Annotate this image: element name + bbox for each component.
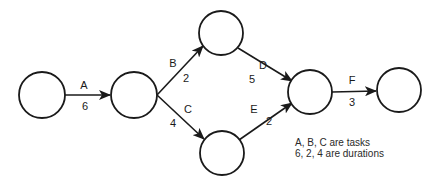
task-label-e: E [250, 103, 257, 115]
edge-f-arrow [332, 91, 376, 92]
event-node-4 [200, 131, 244, 175]
legend-line-tasks: A, B, C are tasks [295, 137, 384, 148]
event-node-1 [19, 72, 65, 118]
event-node-5 [288, 70, 332, 114]
event-node-6 [377, 68, 421, 112]
edge-c-arrow [157, 95, 204, 139]
duration-label-c: 4 [170, 117, 176, 129]
duration-label-a: 6 [82, 100, 88, 112]
duration-label-d: 5 [249, 73, 255, 85]
task-label-a: A [80, 79, 88, 91]
legend-line-durations: 6, 2, 4 are durations [295, 148, 384, 159]
task-label-d: D [259, 59, 267, 71]
duration-label-e: 2 [266, 115, 272, 127]
task-label-b: B [169, 57, 176, 69]
legend: A, B, C are tasks 6, 2, 4 are durations [295, 137, 384, 159]
duration-label-b: 2 [183, 72, 189, 84]
task-label-c: C [184, 103, 192, 115]
duration-label-f: 3 [349, 96, 355, 108]
edge-b-arrow [157, 46, 203, 95]
event-node-2 [111, 72, 157, 118]
task-label-f: F [349, 74, 356, 86]
event-node-3 [199, 11, 243, 55]
